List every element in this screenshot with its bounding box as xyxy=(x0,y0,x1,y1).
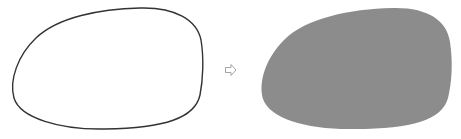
right-arrow-outline-icon xyxy=(226,65,237,76)
outline-shape xyxy=(13,8,203,129)
transformation-diagram xyxy=(0,0,461,139)
filled-shape xyxy=(262,8,452,129)
